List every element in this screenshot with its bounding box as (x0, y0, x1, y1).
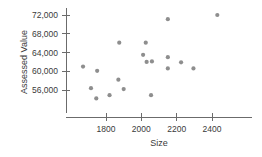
data-point (150, 59, 154, 63)
x-tick-label: 2400 (203, 124, 222, 134)
data-point (89, 86, 93, 90)
data-point (145, 60, 149, 64)
data-point (166, 17, 170, 21)
data-point (95, 69, 99, 73)
x-tick-label: 1800 (97, 124, 116, 134)
y-tick-label: 60,000 (32, 66, 58, 76)
scatter-plot-figure: 56,00060,00064,00068,00072,000 180020002… (0, 0, 262, 157)
x-axis-title: Size (150, 138, 168, 148)
y-tick-label: 56,000 (32, 85, 58, 95)
data-point (166, 55, 170, 59)
data-point (191, 66, 195, 70)
data-point (122, 87, 126, 91)
y-tick-label: 64,000 (32, 48, 58, 58)
data-point-series (81, 13, 219, 101)
y-tick-label: 68,000 (32, 29, 58, 39)
data-point (149, 93, 153, 97)
data-point (107, 93, 111, 97)
data-point (117, 41, 121, 45)
x-tick-label: 2200 (167, 124, 186, 134)
plot-canvas: 56,00060,00064,00068,00072,000 180020002… (0, 0, 262, 157)
y-tick-labels: 56,00060,00064,00068,00072,000 (32, 10, 58, 95)
data-point (141, 53, 145, 57)
data-point (215, 13, 219, 17)
data-point (116, 78, 120, 82)
x-tick-label: 2000 (132, 124, 151, 134)
data-point (94, 96, 98, 100)
data-point (166, 66, 170, 70)
data-point (144, 41, 148, 45)
data-point (81, 64, 85, 68)
data-point (179, 60, 183, 64)
x-tick-labels: 1800200022002400 (97, 124, 222, 134)
y-axis-title: Assessed Value (19, 30, 29, 94)
y-tick-label: 72,000 (32, 10, 58, 20)
